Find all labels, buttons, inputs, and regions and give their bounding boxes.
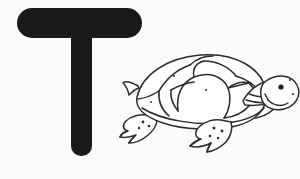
- turtle-illustration-area: [118, 42, 300, 174]
- turtle-rear-flipper-spot-1: [142, 121, 145, 124]
- turtle-shell-speck-2: [205, 89, 207, 91]
- turtle-front-flipper-spot-3: [209, 135, 212, 138]
- turtle-shell-speck-3: [150, 101, 152, 103]
- turtle-rear-flipper-spot-2: [148, 125, 151, 128]
- turtle-eye: [278, 84, 283, 89]
- turtle-front-flipper-spot-1: [213, 127, 216, 130]
- turtle-front-flipper-spot-2: [221, 130, 224, 133]
- turtle-rear-flipper-spot-3: [138, 127, 140, 129]
- turtle-illustration: [118, 42, 300, 174]
- turtle-shell-speck-1: [173, 75, 175, 77]
- turtle-tail: [123, 82, 139, 95]
- letter-t-stem: [71, 12, 92, 156]
- turtle-head-speck-2: [292, 93, 294, 95]
- flashcard-canvas: T turtle: [0, 0, 300, 179]
- turtle-front-flipper-spot-4: [217, 137, 219, 139]
- turtle-line-art: [120, 55, 299, 152]
- turtle-head-speck-1: [289, 79, 291, 81]
